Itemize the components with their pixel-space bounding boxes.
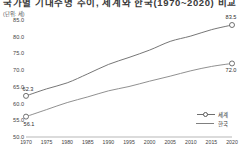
life-expectancy-chart: 국가별 기대수명 추이, 세계와 한국(1970~2020) 비교 (단위: 세… <box>0 0 240 151</box>
x-tick-label: 1985 <box>82 139 94 145</box>
endpoint-marker <box>230 61 235 66</box>
endpoint-marker <box>230 23 235 28</box>
endpoint-marker <box>24 93 29 98</box>
x-tick-label: 1995 <box>123 139 135 145</box>
solid-line-icon <box>196 119 216 128</box>
endpoint-marker <box>24 114 29 119</box>
plot-svg <box>0 0 240 151</box>
world-start-label: 56.1 <box>24 121 35 127</box>
series-line <box>26 63 232 116</box>
x-tick-label: 2010 <box>185 139 197 145</box>
x-tick-label: 1980 <box>61 139 73 145</box>
legend-label-korea: 한국 <box>216 120 228 128</box>
x-tick-label: 2000 <box>144 139 156 145</box>
x-tick-label: 1970 <box>20 139 32 145</box>
x-axis-ticks: 1970197519801985199019952000200520102015… <box>26 139 232 149</box>
legend-item-world: 세계 <box>196 110 238 119</box>
x-tick-label: 1975 <box>41 139 53 145</box>
legend-item-korea: 한국 <box>196 119 238 128</box>
korea-end-label: 83.5 <box>226 14 237 20</box>
korea-start-label: 62.3 <box>23 86 34 92</box>
legend-label-world: 세계 <box>216 111 228 119</box>
x-tick-label: 2020 <box>226 139 238 145</box>
x-tick-label: 2005 <box>164 139 176 145</box>
series-line <box>26 25 232 96</box>
world-end-label: 72.0 <box>226 67 237 73</box>
x-tick-label: 1990 <box>103 139 115 145</box>
chart-legend: 세계 한국 <box>196 110 238 128</box>
x-tick-label: 2015 <box>206 139 218 145</box>
open-circle-line-icon <box>196 110 216 119</box>
